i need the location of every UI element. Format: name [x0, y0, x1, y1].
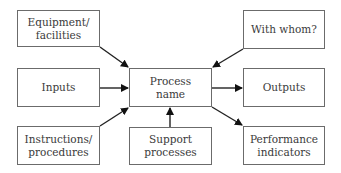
- instructions-procedures-box: Instructions/procedures: [17, 126, 100, 165]
- label: processes: [144, 146, 197, 158]
- inputs-box: Inputs: [17, 68, 100, 107]
- outputs-box: Outputs: [243, 68, 325, 107]
- arrow-process-to-performance: [212, 107, 242, 125]
- label: Support: [149, 133, 192, 145]
- label: With whom?: [251, 23, 317, 36]
- label: Instructions/: [25, 133, 93, 145]
- label: procedures: [28, 146, 88, 158]
- label: Performance: [250, 133, 318, 145]
- arrow-withwhom-to-process: [213, 49, 243, 67]
- performance-indicators-box: Performanceindicators: [243, 126, 325, 165]
- support-processes-box: Supportprocesses: [129, 127, 212, 165]
- label: indicators: [257, 146, 310, 158]
- arrow-instructions-to-process: [100, 108, 128, 126]
- label: name: [156, 88, 185, 100]
- label: Outputs: [263, 81, 306, 94]
- label: Inputs: [41, 81, 75, 94]
- equipment-facilities-box: Equipment/facilities: [17, 10, 100, 47]
- label: facilities: [36, 29, 81, 41]
- label: Process: [150, 75, 191, 87]
- label: Equipment/: [28, 16, 90, 28]
- process-name-box: Processname: [129, 68, 212, 107]
- arrow-equipment-to-process: [100, 47, 128, 67]
- with-whom-box: With whom?: [243, 10, 325, 49]
